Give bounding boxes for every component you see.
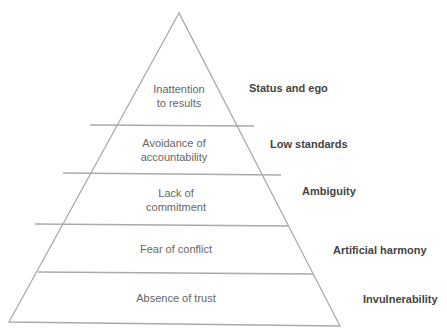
level-3-line2: commitment — [116, 200, 236, 214]
level-2-line2: accountability — [114, 150, 234, 164]
level-5-line1: Absence of trust — [116, 291, 236, 305]
level-3-text: Lack of commitment — [116, 186, 236, 214]
level-2-line1: Avoidance of — [114, 136, 234, 150]
level-4-line1: Fear of conflict — [116, 242, 236, 256]
label-artificial-harmony: Artificial harmony — [333, 244, 427, 256]
level-5-text: Absence of trust — [116, 291, 236, 305]
label-invulnerability: Invulnerability — [363, 293, 438, 305]
label-ambiguity: Ambiguity — [302, 185, 356, 197]
level-1-line2: to results — [119, 96, 239, 110]
level-4-text: Fear of conflict — [116, 242, 236, 256]
label-low-standards: Low standards — [270, 138, 348, 150]
label-status-and-ego: Status and ego — [249, 82, 328, 94]
level-3-line1: Lack of — [116, 186, 236, 200]
pyramid-shape — [0, 0, 447, 336]
level-1-line1: Inattention — [119, 82, 239, 96]
level-1-text: Inattention to results — [119, 82, 239, 110]
level-2-text: Avoidance of accountability — [114, 136, 234, 164]
